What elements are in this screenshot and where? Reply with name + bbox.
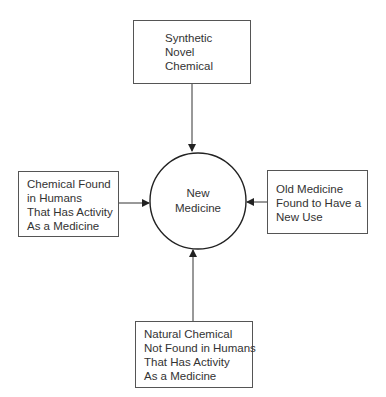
center-line-1: New <box>158 186 238 201</box>
node-chemical-found-in-humans: Chemical Found in Humans That Has Activi… <box>18 171 119 237</box>
node-right-line-1: Old Medicine <box>276 182 367 196</box>
node-left-line-1: Chemical Found <box>27 177 118 191</box>
node-bottom-line-4: As a Medicine <box>144 369 252 383</box>
center-line-2: Medicine <box>158 201 238 216</box>
node-left-line-4: As a Medicine <box>27 219 118 233</box>
center-node-label: New Medicine <box>158 186 238 216</box>
node-bottom-line-1: Natural Chemical <box>144 327 252 341</box>
node-bottom-line-3: That Has Activity <box>144 355 252 369</box>
node-natural-chemical-not-in-humans: Natural Chemical Not Found in Humans Tha… <box>135 321 253 388</box>
node-bottom-line-2: Not Found in Humans <box>144 341 252 355</box>
node-left-line-3: That Has Activity <box>27 205 118 219</box>
node-right-line-3: New Use <box>276 210 367 224</box>
node-synthetic-novel-chemical: Synthetic Novel Chemical <box>133 20 251 84</box>
node-top-line-1: Synthetic <box>165 31 250 45</box>
node-top-line-2: Novel <box>165 45 250 59</box>
node-left-line-2: in Humans <box>27 191 118 205</box>
node-old-medicine-new-use: Old Medicine Found to Have a New Use <box>267 170 368 234</box>
node-top-line-3: Chemical <box>165 59 250 73</box>
node-right-line-2: Found to Have a <box>276 196 367 210</box>
